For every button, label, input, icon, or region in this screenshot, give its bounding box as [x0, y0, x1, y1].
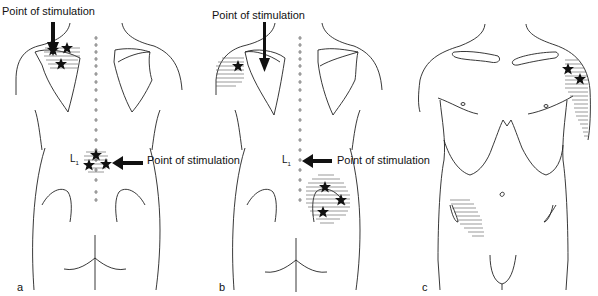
arrow-icon [259, 22, 270, 72]
panel-c-body [419, 24, 591, 290]
panel-b-spine [299, 37, 301, 202]
vertebra-label-b: L1 [282, 155, 291, 167]
star-icon [232, 60, 347, 218]
panel-b-hatch-shoulder [216, 58, 244, 86]
panel-label-c: c [422, 282, 428, 293]
panel-c-hatch-groin [450, 200, 484, 236]
stimulation-label-a-top: Point of stimulation [2, 6, 95, 17]
stimulation-label-b-lumbar: Point of stimulation [337, 155, 430, 166]
panel-a-spine [95, 37, 97, 202]
panel-label-a: a [17, 282, 23, 293]
arrow-icon [302, 154, 332, 168]
stimulation-label-a-lumbar: Point of stimulation [147, 155, 240, 166]
vertebra-label-a: L1 [70, 154, 79, 166]
figure-canvas [0, 0, 598, 296]
stimulation-label-b-top: Point of stimulation [212, 10, 305, 21]
panel-label-b: b [219, 282, 225, 293]
arrow-icon [112, 156, 143, 170]
